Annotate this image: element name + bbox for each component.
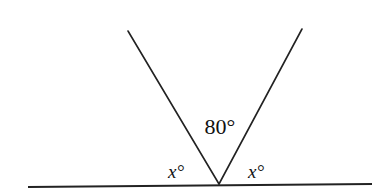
angle-label-left-x: x° (167, 161, 184, 182)
angle-diagram: 80° x° x° (0, 0, 385, 194)
straight-line (28, 184, 372, 187)
angle-label-80: 80° (205, 114, 236, 139)
diagram-svg: 80° x° x° (0, 0, 385, 194)
angle-label-right-x: x° (247, 161, 264, 182)
